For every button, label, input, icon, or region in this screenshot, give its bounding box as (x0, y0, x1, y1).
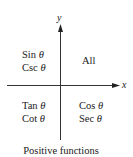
diagram-caption: Positive functions (0, 144, 122, 157)
quadrant-sign-diagram: y x Sin θ Csc θ All Tan θ Cot θ Cos θ Se… (0, 0, 133, 157)
quadrant-4-label: Cos θ Sec θ (79, 99, 103, 125)
q4-line-sec: Sec θ (79, 112, 103, 125)
q4-line-cos: Cos θ (79, 99, 103, 112)
quadrant-1-label: All (82, 54, 95, 67)
quadrant-3-label: Tan θ Cot θ (22, 99, 45, 125)
q3-line-tan: Tan θ (22, 99, 45, 112)
y-axis-arrowhead (58, 24, 63, 32)
q2-line-csc: Csc θ (22, 61, 46, 74)
axes-graphic (0, 0, 133, 157)
y-axis-label: y (57, 11, 61, 24)
x-axis-label: x (122, 78, 126, 91)
q3-line-cot: Cot θ (22, 112, 45, 125)
quadrant-2-label: Sin θ Csc θ (22, 48, 46, 74)
x-axis-arrowhead (112, 83, 120, 88)
q2-line-sin: Sin θ (22, 48, 46, 61)
